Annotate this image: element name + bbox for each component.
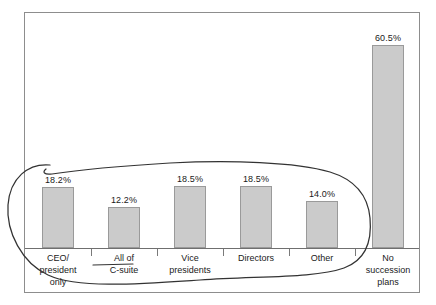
bar-chart: 18.2% 12.2% 18.5% 18.5% 14.0% 60.5% CEO/ <box>0 0 436 305</box>
bar-rect <box>372 45 404 248</box>
category-axis-line <box>25 248 419 249</box>
bar-group-3: 18.5% <box>223 13 289 248</box>
bar-value-label: 60.5% <box>355 33 421 43</box>
bar-rect <box>306 201 338 248</box>
bar-group-2: 18.5% <box>157 13 223 248</box>
category-label-0: CEO/ president only <box>21 252 95 288</box>
category-label-3: Directors <box>219 252 293 264</box>
category-label-1: All of C-suite <box>87 252 161 276</box>
category-label-5: No succession plans <box>351 252 425 288</box>
bar-value-label: 14.0% <box>289 189 355 199</box>
bar-rect <box>174 186 206 248</box>
category-label-4: Other <box>285 252 359 264</box>
bar-group-0: 18.2% <box>25 13 91 248</box>
bar-group-1: 12.2% <box>91 13 157 248</box>
bar-group-4: 14.0% <box>289 13 355 248</box>
bar-rect <box>108 207 140 248</box>
bar-value-label: 18.5% <box>157 174 223 184</box>
bar-value-label: 18.2% <box>25 175 91 185</box>
plot-area: 18.2% 12.2% 18.5% 18.5% 14.0% 60.5% <box>25 13 419 248</box>
bar-value-label: 12.2% <box>91 195 157 205</box>
bar-rect <box>240 186 272 248</box>
bar-value-label: 18.5% <box>223 174 289 184</box>
bar-group-5: 60.5% <box>355 13 421 248</box>
category-label-2: Vice presidents <box>153 252 227 276</box>
bar-rect <box>42 187 74 248</box>
